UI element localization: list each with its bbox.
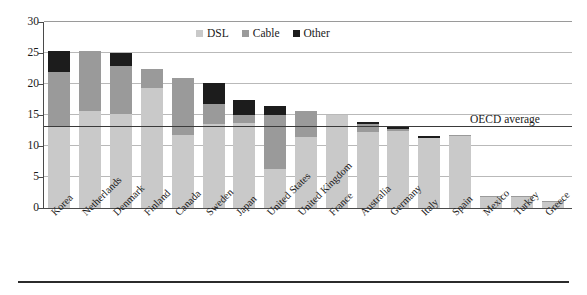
y-tick-label-25: 25: [5, 47, 39, 59]
bar-group[interactable]: [418, 22, 440, 208]
legend-label: DSL: [207, 28, 229, 39]
y-tick-mark-0: [38, 208, 44, 209]
y-tick-mark-25: [38, 53, 44, 54]
legend-item-dsl[interactable]: DSL: [196, 28, 229, 39]
bar-group[interactable]: [172, 22, 194, 208]
oecd-average-reference-line: [44, 126, 572, 127]
square-swatch-icon: [242, 30, 249, 37]
y-tick-label-10: 10: [5, 140, 39, 152]
legend-label: Cable: [253, 28, 280, 39]
y-tick-label-0: 0: [5, 202, 39, 214]
bar-segment-cable: [79, 51, 101, 111]
bar-segment-other: [110, 53, 132, 66]
bar-segment-cable: [141, 69, 163, 88]
y-tick-label-30: 30: [5, 16, 39, 28]
bar-group[interactable]: [79, 22, 101, 208]
bar-segment-cable: [203, 104, 225, 123]
bar-group[interactable]: [357, 22, 379, 208]
bar-group[interactable]: [542, 22, 564, 208]
bar-segment-cable: [264, 115, 286, 169]
bottom-rule: [18, 281, 569, 283]
legend-item-other[interactable]: Other: [293, 28, 330, 39]
y-tick-label-20: 20: [5, 78, 39, 90]
bar-group[interactable]: [141, 22, 163, 208]
bar-segment-cable: [48, 72, 70, 126]
y-tick-label-15: 15: [5, 109, 39, 121]
square-swatch-icon: [293, 30, 300, 37]
bar-segment-cable: [110, 66, 132, 114]
bar-segment-cable: [387, 129, 409, 130]
y-tick-mark-20: [38, 84, 44, 85]
bar-segment-other: [203, 83, 225, 104]
bar-group[interactable]: [387, 22, 409, 208]
bar-group[interactable]: [48, 22, 70, 208]
oecd-average-label: OECD average: [470, 113, 540, 125]
bar-segment-cable: [233, 115, 255, 123]
bar-group[interactable]: [203, 22, 225, 208]
bar-segment-other: [48, 51, 70, 71]
y-tick-mark-30: [38, 22, 44, 23]
y-tick-mark-15: [38, 115, 44, 116]
bar-segment-dsl: [418, 138, 440, 208]
legend-label: Other: [304, 28, 330, 39]
y-tick-mark-10: [38, 146, 44, 147]
bar-segment-other: [418, 136, 440, 138]
legend-item-cable[interactable]: Cable: [242, 28, 280, 39]
square-swatch-icon: [196, 30, 203, 37]
bar-group[interactable]: [233, 22, 255, 208]
bar-segment-other: [264, 106, 286, 115]
bar-segment-other: [233, 100, 255, 116]
bar-segment-cable: [295, 111, 317, 137]
x-axis-category-labels: KoreaNetherlandsDenmarkFinlandCanadaSwed…: [44, 210, 572, 270]
bar-group[interactable]: [264, 22, 286, 208]
y-tick-label-5: 5: [5, 171, 39, 183]
bar-segment-cable: [449, 135, 471, 136]
bar-group[interactable]: [449, 22, 471, 208]
y-tick-mark-5: [38, 177, 44, 178]
broadband-subscribers-stacked-bar-chart: 051015202530 OECD average DSLCableOther …: [0, 0, 587, 295]
bar-segment-other: [357, 122, 379, 124]
chart-legend: DSLCableOther: [196, 28, 330, 39]
bar-segment-other: [387, 127, 409, 129]
